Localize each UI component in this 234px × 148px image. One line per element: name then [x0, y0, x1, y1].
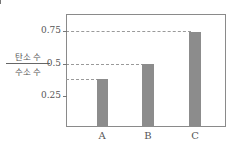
bar-a [97, 79, 108, 127]
y-tick-label: 0.75 [27, 25, 61, 35]
panel-marker [0, 0, 5, 4]
reference-line-a [66, 79, 99, 80]
y-tick-label: 0.5 [27, 58, 61, 68]
y-tick-05 [63, 64, 67, 65]
y-tick-075 [63, 31, 67, 32]
y-tick-025 [63, 96, 67, 97]
x-label-a: A [92, 130, 112, 141]
y-tick-label: 0.25 [27, 90, 61, 100]
reference-line-c [66, 31, 191, 32]
x-label-c: C [185, 130, 205, 141]
reference-line-b [66, 64, 144, 65]
x-label-b: B [138, 130, 158, 141]
bar-b [142, 64, 154, 127]
bar-c [189, 32, 201, 127]
